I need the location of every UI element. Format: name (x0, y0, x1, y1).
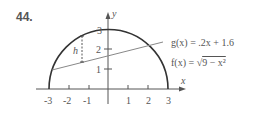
y-tick-label: 2 (96, 44, 101, 55)
x-tick-label: 1 (126, 95, 131, 106)
x-axis-label: x (180, 75, 186, 86)
f-function-label: f(x) = √9 − x² (171, 57, 226, 69)
graph: -3 -2 -1 1 2 3 1 2 3 x y h g(x) = .2x + … (0, 0, 253, 118)
x-tick-label: 3 (166, 95, 171, 106)
x-axis-arrow-icon (179, 87, 186, 92)
y-axis-arrow-icon (106, 12, 111, 19)
y-tick-label: 3 (97, 25, 102, 36)
y-axis-label: y (111, 8, 117, 19)
x-tick-label: 2 (146, 95, 151, 106)
y-tick-label: 1 (96, 64, 101, 75)
x-tick-label: -3 (44, 95, 52, 106)
h-label: h (73, 45, 78, 56)
x-tick-label: -1 (83, 95, 91, 106)
x-tick-label: -2 (63, 95, 71, 106)
g-function-label: g(x) = .2x + 1.6 (171, 37, 234, 49)
